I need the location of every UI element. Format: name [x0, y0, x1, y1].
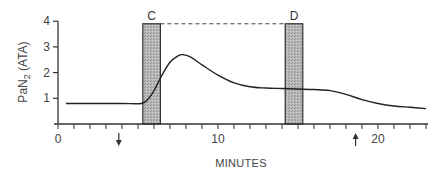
x-axis-label: MINUTES [215, 157, 267, 169]
shaded-bar-d [285, 24, 303, 124]
y-tick-label: 4 [43, 14, 50, 28]
x-tick-label: 20 [371, 132, 385, 146]
y-tick-label: 2 [43, 66, 50, 80]
axes: 123401020 [43, 14, 428, 146]
bar-label-c: C [147, 9, 156, 23]
x-tick-label: 10 [211, 132, 225, 146]
pan2-chart: CD 123401020 MINUTESPaN2 (ATA) [0, 0, 441, 182]
axis-labels: MINUTESPaN2 (ATA) [16, 41, 267, 169]
shaded-bar-c [143, 24, 161, 124]
y-tick-label: 1 [43, 91, 50, 105]
data-series [66, 55, 426, 109]
y-axis-label: PaN2 (ATA) [16, 41, 32, 102]
arrow-markers [116, 133, 359, 146]
bar-label-d: D [290, 9, 299, 23]
y-tick-label: 3 [43, 40, 50, 54]
pan2-curve [66, 55, 426, 109]
x-tick-label: 0 [55, 132, 62, 146]
